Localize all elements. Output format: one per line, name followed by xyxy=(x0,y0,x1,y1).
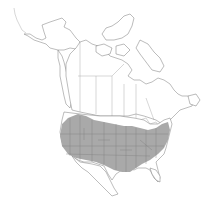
arctic-islands xyxy=(102,14,134,40)
alaska xyxy=(24,18,80,50)
florida xyxy=(150,168,160,182)
arctic-island-2 xyxy=(116,44,130,56)
baffin-island xyxy=(136,40,164,72)
north-america-map-svg xyxy=(0,0,205,199)
range-map xyxy=(0,0,205,199)
canada xyxy=(66,40,194,124)
aleutian-islands xyxy=(14,8,26,33)
